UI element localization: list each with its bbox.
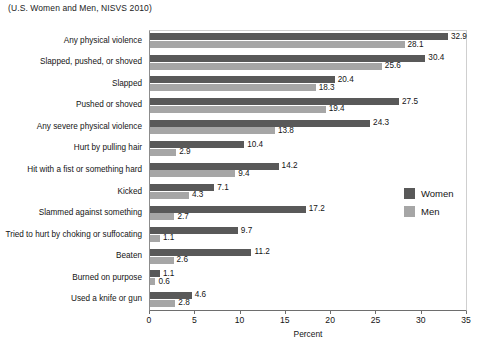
category-label: Slammed against something [39, 208, 142, 217]
x-tick-label: 5 [192, 315, 197, 325]
category-label: Pushed or shoved [76, 100, 142, 109]
bar-men [150, 235, 160, 242]
bar-men [150, 278, 155, 285]
category-label: Tried to hurt by choking or suffocating [5, 230, 142, 239]
bar-value-label: 30.4 [428, 54, 444, 62]
bar-women [150, 249, 251, 256]
bar-value-label: 17.2 [309, 205, 325, 213]
category-label: Hit with a fist or something hard [27, 165, 142, 174]
bar-value-label: 2.8 [178, 299, 189, 307]
bar-value-label: 10.4 [247, 141, 263, 149]
category-label: Slapped, pushed, or shoved [40, 57, 142, 66]
legend-label: Men [421, 206, 439, 217]
bar-men [150, 41, 405, 48]
bar-men [150, 300, 175, 307]
x-tick-mark [466, 311, 467, 314]
bar-value-label: 0.6 [158, 278, 169, 286]
legend: WomenMen [404, 188, 484, 224]
bar-chart: (U.S. Women and Men, NISVS 2010) Any phy… [0, 0, 490, 345]
bar-value-label: 11.2 [254, 248, 269, 256]
category-axis-labels: Any physical violenceSlapped, pushed, or… [0, 30, 146, 310]
x-tick-mark [421, 311, 422, 314]
legend-label: Women [421, 188, 454, 199]
x-tick-label: 30 [416, 315, 426, 325]
bar-men [150, 149, 176, 156]
bar-value-label: 2.6 [177, 256, 188, 264]
x-axis-title: Percent [149, 329, 467, 339]
bar-men [150, 127, 275, 134]
category-label: Used a knife or gun [71, 294, 142, 303]
category-label: Hurt by pulling hair [74, 143, 142, 152]
x-tick-label: 35 [461, 315, 471, 325]
category-label: Slapped [112, 79, 142, 88]
legend-swatch-icon [404, 188, 415, 199]
legend-item: Women [404, 188, 484, 199]
bar-women [150, 120, 370, 127]
bar-women [150, 206, 306, 213]
x-tick-mark [285, 311, 286, 314]
bar-men [150, 192, 189, 199]
chart-title: (U.S. Women and Men, NISVS 2010) [8, 3, 152, 13]
bar-men [150, 106, 326, 113]
legend-item: Men [404, 206, 484, 217]
bar-value-label: 18.3 [319, 84, 335, 92]
category-label: Beaten [116, 251, 142, 260]
bar-value-label: 28.1 [408, 41, 424, 49]
bar-men [150, 257, 174, 264]
bar-value-label: 25.6 [385, 62, 401, 70]
bar-value-label: 2.9 [179, 148, 190, 156]
bar-value-label: 4.6 [195, 291, 206, 299]
bar-men [150, 213, 174, 220]
bar-men [150, 84, 316, 91]
category-label: Kicked [117, 187, 142, 196]
bars-layer: 32.928.130.425.620.418.327.519.424.313.8… [150, 30, 467, 310]
bar-value-label: 4.3 [192, 191, 203, 199]
x-tick-mark [375, 311, 376, 314]
bar-women [150, 98, 399, 105]
x-tick-mark [240, 311, 241, 314]
bar-value-label: 32.9 [451, 33, 467, 41]
category-label: Any severe physical violence [37, 122, 142, 131]
bar-women [150, 33, 448, 40]
x-tick-label: 15 [280, 315, 290, 325]
bar-value-label: 14.2 [282, 162, 298, 170]
bar-value-label: 13.8 [278, 127, 294, 135]
bar-men [150, 63, 382, 70]
x-tick-label: 10 [235, 315, 245, 325]
bar-value-label: 24.3 [373, 119, 389, 127]
x-tick-mark [194, 311, 195, 314]
x-tick-label: 20 [325, 315, 335, 325]
category-label: Burned on purpose [72, 273, 142, 282]
category-label: Any physical violence [64, 36, 142, 45]
bar-women [150, 163, 279, 170]
bar-value-label: 2.7 [177, 213, 188, 221]
bar-value-label: 9.7 [241, 227, 252, 235]
x-tick-mark [149, 311, 150, 314]
bar-value-label: 1.1 [163, 234, 174, 242]
bar-value-label: 19.4 [329, 105, 345, 113]
bar-women [150, 184, 214, 191]
legend-swatch-icon [404, 206, 415, 217]
bar-women [150, 76, 335, 83]
bar-value-label: 7.1 [217, 184, 228, 192]
x-axis-ticks: 05101520253035 [149, 311, 469, 327]
bar-value-label: 27.5 [402, 98, 418, 106]
x-tick-label: 0 [147, 315, 152, 325]
x-tick-label: 25 [371, 315, 381, 325]
bar-women [150, 141, 244, 148]
bar-men [150, 170, 235, 177]
bar-value-label: 20.4 [338, 76, 354, 84]
x-tick-mark [330, 311, 331, 314]
bar-value-label: 9.4 [238, 170, 249, 178]
